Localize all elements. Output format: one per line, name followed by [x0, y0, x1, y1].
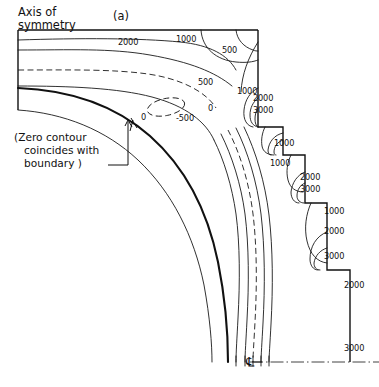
- contour-label: 500: [222, 45, 237, 55]
- contour-label: -500: [176, 113, 194, 123]
- contour-label: 3000: [300, 184, 320, 194]
- contour-label: 1000: [274, 138, 294, 148]
- axis-of-symmetry-line1: Axis of: [18, 5, 57, 19]
- contour-label: 1000: [270, 158, 290, 168]
- contour-group-upper: [18, 39, 236, 140]
- vessel-frame: [18, 30, 350, 362]
- contour-label: 3000: [344, 343, 364, 353]
- contour-label: 2000: [118, 37, 138, 47]
- contour-label: 500: [198, 77, 213, 87]
- contour-plot-svg: Axis of symmetry (a) (Zero contour coinc…: [0, 0, 379, 387]
- panel-label: (a): [113, 9, 129, 23]
- zero-contour-note-line2: coincides with: [24, 144, 99, 156]
- axis-of-symmetry-line2: symmetry: [18, 18, 76, 32]
- contour-group-right-bundle: [214, 127, 272, 362]
- figure-canvas: Axis of symmetry (a) (Zero contour coinc…: [0, 0, 379, 387]
- contour-label: 2000: [300, 172, 320, 182]
- contour-label: 3000: [253, 105, 273, 115]
- vessel-inner-boundary: [18, 88, 228, 362]
- contour-label: 0: [208, 103, 213, 113]
- note-leader-line: [108, 120, 132, 165]
- contour-label: 2000: [344, 280, 364, 290]
- contour-label: 2000: [253, 93, 273, 103]
- zero-contour-note-line1: (Zero contour: [14, 131, 87, 143]
- centerline-symbol: ℄: [245, 354, 255, 369]
- contour-label: 0: [141, 112, 146, 122]
- contour-label: 1000: [176, 34, 196, 44]
- contour-label: 2000: [324, 226, 344, 236]
- contour-label: 1000: [324, 206, 344, 216]
- contour-label: 3000: [324, 251, 344, 261]
- zero-contour-note-line3: boundary ): [24, 157, 82, 169]
